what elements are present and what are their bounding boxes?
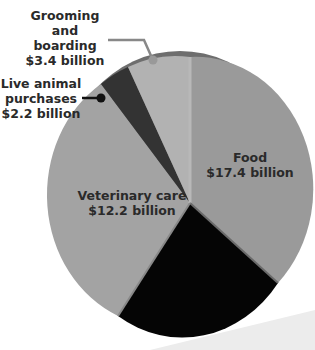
label-veterinary: Veterinary care $12.2 billion [72, 188, 192, 218]
label-grooming-name: Grooming and [20, 8, 110, 38]
callout-dot-live-animal [97, 94, 106, 103]
callout-dot-grooming [149, 56, 158, 65]
label-food-name: Food [200, 150, 300, 165]
label-veterinary-value: $12.2 billion [72, 203, 192, 218]
label-grooming-name-2: boarding [20, 38, 110, 53]
label-veterinary-name: Veterinary care [72, 188, 192, 203]
callout-line-grooming [108, 40, 152, 58]
label-grooming: Grooming and boarding $3.4 billion [20, 8, 110, 68]
label-live-animal: Live animal purchases $2.2 billion [0, 76, 82, 121]
label-food: Food $17.4 billion [200, 150, 300, 180]
label-live-animal-name: Live animal [0, 76, 82, 91]
label-live-animal-value: $2.2 billion [0, 106, 82, 121]
label-grooming-value: $3.4 billion [20, 53, 110, 68]
label-food-value: $17.4 billion [200, 165, 300, 180]
label-live-animal-name-2: purchases [0, 91, 82, 106]
